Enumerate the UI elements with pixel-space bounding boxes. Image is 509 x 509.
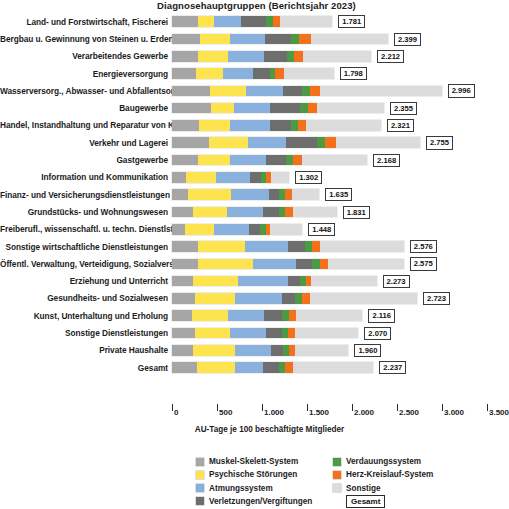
bar-segment-7 [270, 224, 302, 235]
legend-column-left: Muskel-Skelett-SystemPsychische Störunge… [196, 455, 312, 508]
legend-item[interactable]: Verdauungssystem [333, 455, 433, 468]
legend-label: Atmungssystem [209, 484, 273, 493]
bar-segment-3 [227, 207, 263, 218]
legend-item-total: Gesamt [333, 495, 433, 508]
bar-segment-3 [248, 137, 287, 148]
bar-segment-2 [199, 120, 230, 131]
stacked-bar[interactable] [172, 362, 373, 373]
bar-segment-1 [172, 51, 198, 62]
chart-row: Bergbau u. Gewinnung von Steinen u. Erde… [0, 30, 503, 47]
total-value-badge: 2.070 [364, 327, 391, 340]
bar-segment-6 [285, 362, 292, 373]
bar-segment-7 [310, 293, 417, 304]
chart-row: Kunst, Unterhaltung und Erholung2.116 [0, 307, 503, 324]
bar-segment-2 [198, 241, 245, 252]
bar-segment-2 [198, 259, 253, 270]
bar-segment-6 [308, 103, 317, 114]
chart-legend: Muskel-Skelett-SystemPsychische Störunge… [0, 455, 503, 509]
stacked-bar[interactable] [172, 120, 381, 131]
bar-segment-3 [234, 103, 270, 114]
category-label: Kunst, Unterhaltung und Erholung [0, 311, 172, 321]
bar-segment-1 [172, 207, 193, 218]
bar-track: 2.576 [172, 238, 503, 255]
stacked-bar[interactable] [172, 103, 384, 114]
legend-item[interactable]: Psychische Störungen [196, 468, 312, 481]
chart-row: Private Haushalte1.960 [0, 342, 503, 359]
bar-segment-7 [311, 34, 388, 45]
bar-segment-7 [271, 172, 289, 183]
bar-segment-1 [172, 68, 196, 79]
stacked-bar[interactable] [172, 345, 348, 356]
category-label: Energieversorgung [0, 69, 172, 79]
color-swatch-icon [196, 471, 204, 479]
legend-item[interactable]: Herz-Kreislauf-System [333, 468, 433, 481]
bar-track: 2.321 [172, 117, 503, 134]
stacked-bar[interactable] [172, 155, 367, 166]
stacked-bar[interactable] [172, 310, 362, 321]
bar-segment-3 [253, 259, 296, 270]
bar-segment-4 [288, 276, 300, 287]
bar-segment-2 [198, 155, 230, 166]
bar-segment-2 [198, 51, 228, 62]
chart-row: Öffentl. Verwaltung, Verteidigung, Sozia… [0, 255, 503, 272]
stacked-bar[interactable] [172, 68, 334, 79]
bar-segment-2 [185, 224, 215, 235]
bar-segment-7 [280, 16, 332, 27]
stacked-bar[interactable] [172, 224, 302, 235]
tick-label: 3.500 [489, 408, 509, 417]
chart-row: Baugewerbe2.355 [0, 99, 503, 116]
legend-total-badge: Gesamt [346, 495, 385, 508]
bar-segment-4 [282, 293, 296, 304]
bar-segment-4 [288, 241, 305, 252]
stacked-bar[interactable] [172, 16, 332, 27]
stacked-bar[interactable] [172, 172, 289, 183]
total-value-badge: 2.399 [394, 33, 421, 46]
category-label: Grundstücks- und Wohnungswesen [0, 207, 172, 217]
bar-segment-5 [305, 241, 312, 252]
chart-plot-area: Land- und Forstwirtschaft, Fischerei1.78… [0, 13, 503, 376]
bar-segment-6 [320, 259, 328, 270]
stacked-bar[interactable] [172, 189, 319, 200]
bar-segment-3 [214, 16, 241, 27]
stacked-bar[interactable] [172, 259, 404, 270]
bar-segment-1 [172, 276, 193, 287]
bar-segment-2 [211, 103, 234, 114]
stacked-bar[interactable] [172, 34, 388, 45]
stacked-bar[interactable] [172, 137, 420, 148]
bar-segment-3 [246, 86, 283, 97]
legend-item[interactable]: Atmungssystem [196, 482, 312, 495]
bar-track: 1.781 [172, 13, 503, 30]
tick-label: 1.500 [309, 408, 329, 417]
legend-item[interactable]: Verletzungen/Vergiftungen [196, 495, 312, 508]
x-axis: 05001.0001.5002.0002.5003.0003.500 [0, 404, 503, 422]
stacked-bar[interactable] [172, 86, 442, 97]
bar-track: 1.960 [172, 342, 503, 359]
stacked-bar[interactable] [172, 293, 417, 304]
bar-segment-1 [172, 241, 198, 252]
stacked-bar[interactable] [172, 241, 404, 252]
bar-segment-4 [264, 310, 282, 321]
bar-segment-3 [223, 68, 253, 79]
legend-item[interactable]: Sonstige [333, 482, 433, 495]
chart-row: Handel, Instandhaltung und Reparatur von… [0, 117, 503, 134]
chart-row: Energieversorgung1.798 [0, 65, 503, 82]
bar-segment-1 [172, 189, 188, 200]
category-label: Finanz- und Versicherungsdienstleistunge… [0, 190, 172, 200]
stacked-bar[interactable] [172, 328, 358, 339]
stacked-bar[interactable] [172, 207, 337, 218]
color-swatch-icon [196, 484, 204, 492]
category-label: Bergbau u. Gewinnung von Steinen u. Erde… [0, 34, 172, 44]
total-value-badge: 1.635 [325, 188, 352, 201]
total-value-badge: 2.237 [379, 361, 406, 374]
bar-track: 2.273 [172, 272, 503, 289]
legend-label: Muskel-Skelett-System [209, 457, 298, 466]
chart-row: Erziehung und Unterricht2.273 [0, 272, 503, 289]
bar-segment-1 [172, 310, 192, 321]
bar-segment-3 [230, 120, 271, 131]
stacked-bar[interactable] [172, 51, 371, 62]
legend-item[interactable]: Muskel-Skelett-System [196, 455, 312, 468]
bar-segment-2 [195, 328, 230, 339]
stacked-bar[interactable] [172, 276, 377, 287]
bar-segment-5 [286, 155, 293, 166]
tick-mark [397, 404, 398, 411]
